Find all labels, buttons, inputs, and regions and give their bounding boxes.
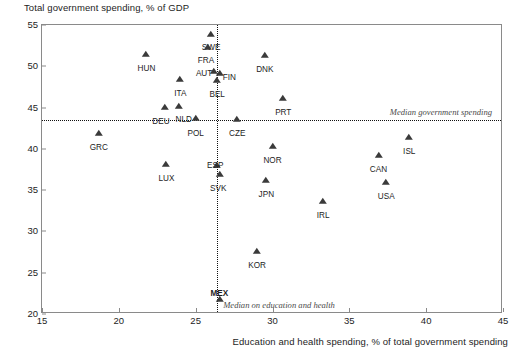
x-tick-label: 35 bbox=[344, 316, 355, 326]
data-point-label: SVK bbox=[210, 185, 226, 193]
data-point-label: LUX bbox=[159, 175, 175, 183]
data-point-label: GRC bbox=[90, 144, 108, 152]
data-point-marker bbox=[261, 52, 269, 58]
data-point-label: AUT bbox=[196, 70, 212, 78]
x-axis-title: Education and health spending, % of tota… bbox=[233, 336, 508, 347]
y-tick-mark bbox=[42, 25, 46, 26]
x-tick-label: 20 bbox=[114, 316, 125, 326]
data-point-marker bbox=[382, 179, 390, 185]
data-point-label: KOR bbox=[248, 262, 266, 270]
data-point-marker bbox=[279, 95, 287, 101]
median-government-spending-label: Median government spending bbox=[390, 107, 492, 117]
median-education-health-label: Median on education and health bbox=[223, 300, 335, 310]
y-tick-label: 55 bbox=[27, 20, 38, 30]
data-point-marker bbox=[175, 103, 183, 109]
y-tick-label: 25 bbox=[27, 268, 38, 278]
data-point-marker bbox=[142, 51, 150, 57]
y-tick-label: 40 bbox=[27, 144, 38, 154]
y-tick-mark bbox=[42, 66, 46, 67]
x-tick-mark bbox=[42, 308, 43, 312]
data-point-label: FRA bbox=[198, 57, 214, 65]
data-point-label: PRT bbox=[275, 109, 291, 117]
data-point-label: NLD bbox=[176, 116, 192, 124]
y-tick-mark bbox=[42, 190, 46, 191]
data-point-label: HUN bbox=[138, 65, 156, 73]
data-point-label: ESP bbox=[207, 162, 223, 170]
x-tick-mark bbox=[196, 308, 197, 312]
x-tick-mark bbox=[503, 308, 504, 312]
y-tick-label: 35 bbox=[27, 185, 38, 195]
data-point-label: ITA bbox=[174, 90, 186, 98]
data-point-label: CZE bbox=[229, 130, 245, 138]
data-point-marker bbox=[319, 198, 327, 204]
data-point-label: CAN bbox=[370, 166, 387, 174]
data-point-label: DEU bbox=[152, 118, 169, 126]
data-point-marker bbox=[268, 143, 276, 149]
x-tick-label: 25 bbox=[190, 316, 201, 326]
data-point-marker bbox=[207, 31, 215, 37]
data-point-marker bbox=[161, 104, 169, 110]
data-point-marker bbox=[253, 248, 261, 254]
data-point-label: FIN bbox=[223, 74, 236, 82]
data-point-label: ISL bbox=[403, 148, 415, 156]
data-point-marker bbox=[405, 134, 413, 140]
plot-area: 202530354045505515202530354045Median gov… bbox=[41, 24, 502, 313]
data-point-marker bbox=[162, 161, 170, 167]
y-tick-mark bbox=[42, 107, 46, 108]
data-point-marker bbox=[262, 177, 270, 183]
y-tick-mark bbox=[42, 231, 46, 232]
data-point-marker bbox=[213, 77, 221, 83]
y-tick-label: 30 bbox=[27, 227, 38, 237]
data-point-label: NOR bbox=[263, 157, 281, 165]
data-point-marker bbox=[191, 115, 199, 121]
data-point-label: BEL bbox=[209, 91, 224, 99]
data-point-marker bbox=[216, 171, 224, 177]
data-point-label: POL bbox=[187, 130, 203, 138]
x-tick-mark bbox=[119, 308, 120, 312]
x-tick-label: 15 bbox=[37, 316, 48, 326]
data-point-marker bbox=[204, 44, 212, 50]
y-tick-mark bbox=[42, 148, 46, 149]
x-tick-label: 45 bbox=[498, 316, 509, 326]
data-point-marker bbox=[176, 75, 184, 81]
data-point-marker bbox=[233, 116, 241, 122]
data-point-label: DNK bbox=[256, 66, 273, 74]
x-tick-label: 40 bbox=[421, 316, 432, 326]
median-government-spending-line bbox=[42, 120, 501, 121]
x-tick-label: 30 bbox=[267, 316, 278, 326]
y-tick-mark bbox=[42, 272, 46, 273]
x-tick-mark bbox=[349, 308, 350, 312]
y-tick-label: 50 bbox=[27, 62, 38, 72]
data-point-marker bbox=[95, 130, 103, 136]
chart-root: Total government spending, % of GDP Educ… bbox=[0, 0, 515, 356]
y-axis-title: Total government spending, % of GDP bbox=[24, 2, 189, 13]
data-point-label: MEX bbox=[210, 290, 228, 298]
x-tick-mark bbox=[426, 308, 427, 312]
data-point-label: IRL bbox=[317, 212, 330, 220]
y-tick-label: 45 bbox=[27, 103, 38, 113]
data-point-label: USA bbox=[378, 193, 395, 201]
data-point-label: JPN bbox=[259, 191, 274, 199]
data-point-marker bbox=[374, 152, 382, 158]
